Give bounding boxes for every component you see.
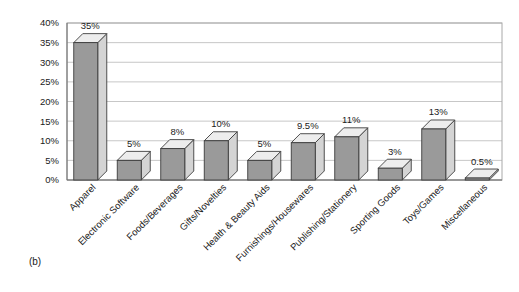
bar-value-label: 0.5% bbox=[471, 156, 493, 167]
bar-front-face bbox=[204, 141, 228, 180]
bar-front-face bbox=[378, 168, 402, 180]
bar-value-label: 10% bbox=[211, 118, 231, 129]
bar-column bbox=[204, 132, 237, 180]
y-tick-label: 20% bbox=[40, 96, 60, 107]
bar-column bbox=[422, 120, 455, 180]
bar-front-face bbox=[335, 137, 359, 180]
y-tick-label: 0% bbox=[45, 174, 59, 185]
y-tick-label: 25% bbox=[40, 76, 60, 87]
bar-side-face bbox=[98, 34, 107, 180]
y-tick-label: 40% bbox=[40, 17, 60, 28]
bar-front-face bbox=[248, 160, 272, 180]
y-tick-label: 35% bbox=[40, 37, 60, 48]
bar-column bbox=[74, 34, 107, 180]
y-tick-label: 15% bbox=[40, 116, 60, 127]
bar-column bbox=[335, 128, 368, 180]
bar-column bbox=[117, 151, 150, 180]
bar-column bbox=[291, 134, 324, 180]
bar-value-label: 9.5% bbox=[297, 120, 319, 131]
figure-caption: (b) bbox=[29, 256, 41, 267]
bar-front-face bbox=[117, 160, 141, 180]
y-tick-label: 5% bbox=[45, 155, 59, 166]
bar-value-label: 8% bbox=[170, 126, 184, 137]
bar-value-label: 3% bbox=[388, 146, 402, 157]
bar-value-label: 35% bbox=[81, 20, 101, 31]
bar-column bbox=[248, 151, 281, 180]
bar-front-face bbox=[161, 149, 185, 180]
bar-front-face bbox=[465, 178, 489, 180]
bar-value-label: 5% bbox=[257, 138, 271, 149]
bar-value-label: 11% bbox=[342, 114, 361, 125]
y-tick-label: 30% bbox=[40, 57, 60, 68]
bar-front-face bbox=[291, 143, 315, 180]
bar-value-label: 5% bbox=[127, 138, 141, 149]
bar-side-face bbox=[446, 120, 455, 180]
bar-chart-figure: 40%35%30%25%20%15%10%5%0% 35%5%8%10%5%9.… bbox=[0, 0, 519, 292]
y-tick-label: 10% bbox=[40, 135, 60, 146]
bar-front-face bbox=[74, 43, 98, 180]
bar-front-face bbox=[422, 129, 446, 180]
bar-value-label: 13% bbox=[429, 106, 449, 117]
bar-column bbox=[161, 140, 194, 180]
